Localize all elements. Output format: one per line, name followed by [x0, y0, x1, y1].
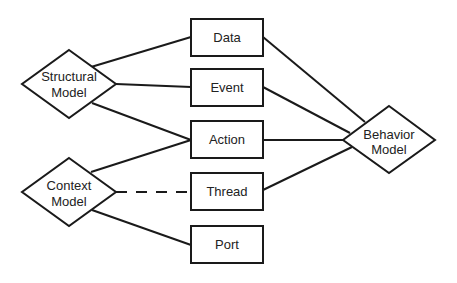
- edge-thread-behavior: [263, 147, 352, 190]
- node-label: Thread: [206, 184, 247, 199]
- diamond-shape: [22, 50, 116, 118]
- node-action[interactable]: Action: [191, 121, 263, 158]
- node-data[interactable]: Data: [191, 19, 263, 56]
- node-thread[interactable]: Thread: [191, 173, 263, 210]
- node-label: Port: [215, 237, 239, 252]
- node-structural-model[interactable]: Structural Model: [22, 50, 116, 118]
- edge-event-behavior: [263, 87, 350, 133]
- edge-structural-data: [91, 37, 191, 67]
- node-label: Action: [209, 132, 245, 147]
- diagram-svg: Structural Model Context Model Behavior …: [0, 0, 457, 283]
- node-label-line1: Behavior: [363, 127, 415, 142]
- node-port[interactable]: Port: [191, 226, 263, 263]
- edge-structural-event: [116, 84, 191, 87]
- diagram-canvas: Structural Model Context Model Behavior …: [0, 0, 457, 283]
- node-label: Event: [210, 80, 244, 95]
- node-label-line2: Model: [371, 142, 407, 157]
- edge-data-behavior: [263, 37, 365, 122]
- node-label-line1: Structural: [41, 69, 97, 84]
- node-label-line1: Context: [47, 178, 92, 193]
- edge-structural-action: [92, 103, 191, 140]
- edge-context-action: [91, 140, 191, 172]
- node-label-line2: Model: [51, 85, 87, 100]
- node-label: Data: [213, 30, 241, 45]
- edge-context-port: [92, 210, 191, 245]
- node-label-line2: Model: [51, 194, 87, 209]
- node-event[interactable]: Event: [191, 69, 263, 106]
